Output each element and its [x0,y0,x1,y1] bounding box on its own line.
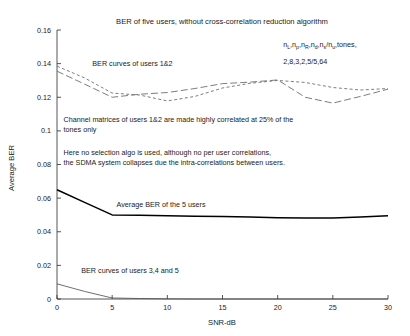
y-tick-label: 0.14 [37,59,51,68]
y-axis-label: Average BER [7,145,16,191]
y-tick-label: 0.04 [37,227,51,236]
annotation-label-average: Average BER of the 5 users [117,200,206,209]
annotation-params-values: 2,8,3,2,5/5,64 [283,57,327,66]
annotation-label-users12: BER curves of users 1&2 [92,59,172,68]
chart-title: BER of five users, without cross-correla… [116,17,328,26]
x-tick-label: 15 [219,303,227,312]
x-tick-label: 20 [274,303,282,312]
y-tick-label: 0.1 [41,126,51,135]
y-tick-label: 0.02 [37,261,51,270]
y-tick-label: 0.06 [37,194,51,203]
annotation-note-selection-line1: Here no selection algo is used, although… [64,148,271,157]
x-tick-label: 25 [329,303,337,312]
x-tick-label: 30 [384,303,392,312]
annotation-params-symbols: nL,np,nR,nd,ns/nu,tones, [283,40,356,50]
annotation-label-users345: BER curves of users 3,4 and 5 [81,266,178,275]
chart-background [0,0,410,336]
y-tick-label: 0.12 [37,93,51,102]
y-tick-label: 0.08 [37,160,51,169]
y-tick-label: 0 [47,295,51,304]
x-tick-label: 0 [55,303,59,312]
annotation-note-selection-line2: the SDMA system collapses due the intra-… [64,158,285,167]
annotation-note-channel-line2: tones only [64,125,97,134]
y-tick-label: 0.16 [37,26,51,35]
annotation-note-channel-line1: Channel matrices of users 1&2 are made h… [64,115,294,124]
x-tick-label: 10 [163,303,171,312]
x-axis-label: SNR-dB [208,318,236,327]
x-tick-label: 5 [110,303,114,312]
chart-figure: BER of five users, without cross-correla… [0,0,410,336]
ber-line-chart: BER of five users, without cross-correla… [0,0,410,336]
